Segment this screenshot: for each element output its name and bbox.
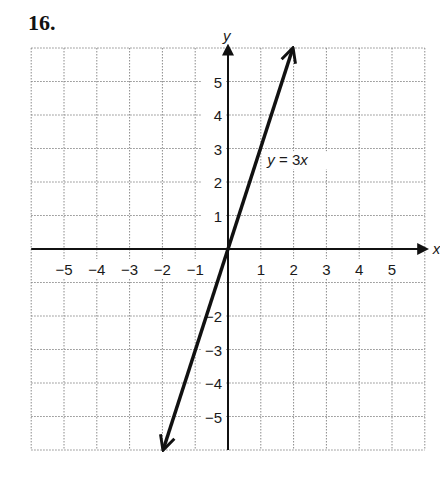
- x-tick-label: 1: [257, 261, 265, 278]
- x-tick-label: 2: [289, 261, 297, 278]
- x-tick-label: −4: [88, 261, 105, 278]
- y-axis-label: y: [222, 27, 232, 44]
- y-tick-label: −3: [205, 342, 222, 359]
- x-tick-label: 5: [388, 261, 396, 278]
- x-tick-label: −2: [154, 261, 171, 278]
- y-tick-label: −5: [205, 409, 222, 426]
- coordinate-graph: xy−5−4−3−2−11234554321−2−3−4−5 y = 3x: [0, 0, 440, 477]
- x-tick-label: −1: [187, 261, 204, 278]
- tick-labels: xy−5−4−3−2−11234554321−2−3−4−5: [51, 27, 440, 426]
- x-axis-label: x: [432, 240, 440, 257]
- y-tick-label: 1: [214, 208, 222, 225]
- y-tick-label: 3: [214, 141, 222, 158]
- y-tick-label: 2: [214, 174, 222, 191]
- y-tick-label: 4: [214, 107, 222, 124]
- x-tick-label: 4: [355, 261, 363, 278]
- y-tick-label: 5: [214, 74, 222, 91]
- y-tick-label: −4: [205, 375, 222, 392]
- x-tick-label: −3: [121, 261, 138, 278]
- equation-label: y = 3x: [266, 151, 308, 168]
- x-tick-label: 3: [322, 261, 330, 278]
- x-tick-label: −5: [55, 261, 72, 278]
